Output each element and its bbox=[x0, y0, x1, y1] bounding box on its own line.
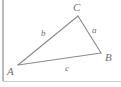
vertex-label-b: B bbox=[105, 52, 112, 63]
vertex-label-a: A bbox=[7, 66, 14, 77]
vertex-label-c: C bbox=[73, 2, 80, 13]
triangle-figure: A B C a b c bbox=[0, 0, 121, 87]
side-a-segment-C-B bbox=[78, 16, 101, 53]
triangle-canvas bbox=[0, 0, 121, 87]
side-label-b: b bbox=[41, 29, 46, 38]
side-label-c: c bbox=[65, 64, 69, 73]
side-label-a: a bbox=[92, 26, 97, 35]
